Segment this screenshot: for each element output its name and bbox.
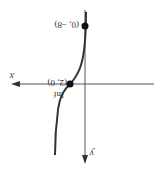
inflection-annotation: Inf: [54, 90, 65, 100]
graph-canvas: x y (0, −8) (2, 0) Inf: [0, 0, 163, 174]
y-axis-label: y: [89, 148, 95, 159]
point-label-inflection: (2, 0): [48, 78, 68, 88]
point-y-intercept: [82, 23, 89, 30]
point-label-y-intercept: (0, −8): [54, 20, 79, 30]
x-axis-label: x: [9, 71, 15, 82]
y-axis-arrow-icon: [82, 155, 88, 164]
x-axis: [11, 81, 154, 87]
